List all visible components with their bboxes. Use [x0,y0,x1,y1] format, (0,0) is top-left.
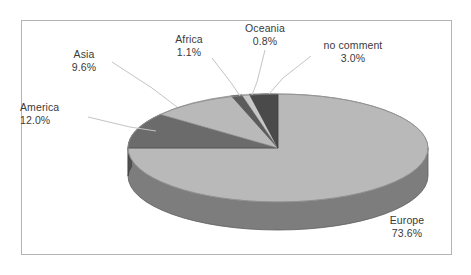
slice-label-oceania-name: Oceania [237,22,293,35]
slice-label-asia-percent: 9.6% [58,61,110,74]
slice-label-america-percent: 12.0% [20,114,86,127]
slice-label-no-comment-percent: 3.0% [313,52,393,65]
slice-label-oceania-percent: 0.8% [237,35,293,48]
slice-label-africa-name: Africa [165,33,213,46]
slice-label-no-comment-name: no comment [313,39,393,52]
slice-label-america: America 12.0% [20,101,86,126]
pie-chart-screenshot: Asia 9.6% America 12.0% Africa 1.1% Ocea… [0,0,471,275]
leader-line-asia [112,62,177,107]
slice-label-europe-name: Europe [377,214,437,227]
slice-label-no-comment: no comment 3.0% [313,39,393,64]
slice-label-asia-name: Asia [58,48,110,61]
slice-label-africa: Africa 1.1% [165,33,213,58]
leader-line-oceania [252,50,265,95]
slice-label-asia: Asia 9.6% [58,48,110,73]
slice-label-europe-percent: 73.6% [377,227,437,240]
slice-label-america-name: America [20,101,86,114]
leader-line-africa [212,58,240,96]
leader-line-no-comment [269,56,311,94]
slice-label-africa-percent: 1.1% [165,46,213,59]
slice-label-oceania: Oceania 0.8% [237,22,293,47]
slice-label-europe: Europe 73.6% [377,214,437,239]
